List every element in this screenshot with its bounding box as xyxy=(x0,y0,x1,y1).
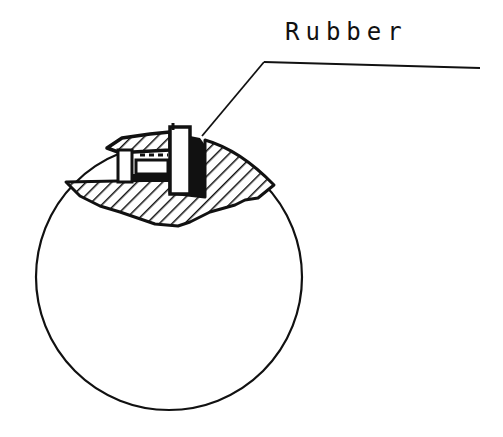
cap-slot xyxy=(136,160,168,174)
leader-line xyxy=(202,62,480,136)
cap-leg xyxy=(118,150,132,182)
rubber-strip xyxy=(190,136,205,197)
cap xyxy=(107,132,170,182)
cap-base xyxy=(133,174,170,182)
rubber-label: Rubber xyxy=(285,18,408,46)
diagram-canvas xyxy=(0,0,503,437)
pillar xyxy=(170,127,190,194)
